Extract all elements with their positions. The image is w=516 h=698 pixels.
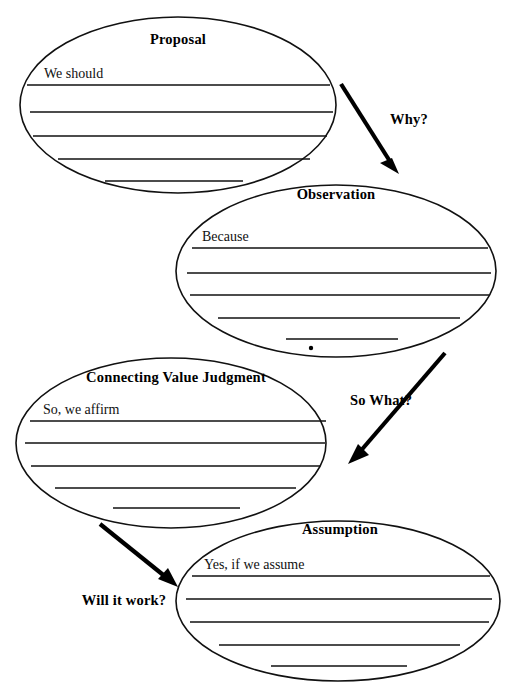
node-title-connecting-value-judgment: Connecting Value Judgment [86, 369, 266, 385]
node-connecting-value-judgment[interactable]: Connecting Value Judgment So, we affirm [16, 358, 326, 528]
node-assumption[interactable]: Assumption Yes, if we assume [176, 521, 500, 681]
node-title-observation: Observation [297, 186, 376, 202]
argument-map-diagram: Proposal We should Why? Observation Beca… [0, 0, 516, 698]
node-title-proposal: Proposal [150, 31, 206, 47]
node-prompt-assumption: Yes, if we assume [204, 557, 304, 572]
node-prompt-proposal: We should [44, 66, 103, 81]
arrow-label-so-what: So What? [350, 392, 412, 408]
ellipse-outline-assumption [176, 521, 500, 681]
arrow-label-why: Why? [390, 111, 428, 127]
node-title-assumption: Assumption [302, 521, 378, 537]
node-prompt-observation: Because [202, 229, 249, 244]
ellipse-outline-observation [176, 185, 496, 357]
node-proposal[interactable]: Proposal We should [20, 17, 336, 193]
node-prompt-connecting-value-judgment: So, we affirm [43, 402, 119, 417]
node-observation[interactable]: Observation Because [176, 185, 496, 357]
arrow-label-will-it-work: Will it work? [82, 592, 167, 608]
ink-dot [309, 346, 313, 350]
